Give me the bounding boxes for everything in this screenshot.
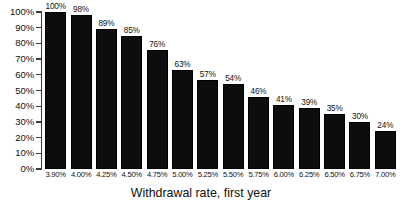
bar-value-label: 98%	[73, 5, 89, 14]
bar[interactable]	[96, 29, 117, 169]
bar[interactable]	[273, 105, 294, 169]
y-axis-tick-mark	[36, 74, 42, 75]
y-axis-tick-label: 100%	[0, 7, 34, 17]
y-axis-tick-label: 30%	[0, 117, 34, 127]
bar-value-label: 76%	[149, 40, 165, 49]
bar-group[interactable]: 76%	[147, 12, 168, 169]
bar[interactable]	[349, 122, 370, 169]
bar-value-label: 41%	[276, 95, 292, 104]
y-axis-tick-mark	[36, 11, 42, 12]
x-axis-title: Withdrawal rate, first year	[0, 186, 402, 201]
bar-value-label: 46%	[251, 87, 267, 96]
y-axis-tick-label: 40%	[0, 101, 34, 111]
bar-group[interactable]: 54%	[223, 12, 244, 169]
bar-chart: 100%90%80%70%60%50%40%30%20%10%0% 100%98…	[0, 0, 402, 207]
y-axis-tick-mark	[36, 106, 42, 107]
bar[interactable]	[71, 15, 92, 169]
bar-group[interactable]: 41%	[273, 12, 294, 169]
bar[interactable]	[375, 131, 396, 169]
bar-group[interactable]: 89%	[96, 12, 117, 169]
y-axis-tick-label: 20%	[0, 133, 34, 143]
bar-value-label: 100%	[46, 2, 66, 11]
bar[interactable]	[172, 70, 193, 169]
bar[interactable]	[45, 12, 66, 169]
y-axis-tick-label: 0%	[0, 164, 34, 174]
bar-group[interactable]: 24%	[375, 12, 396, 169]
bar-value-label: 35%	[327, 104, 343, 113]
bar[interactable]	[324, 114, 345, 169]
bar[interactable]	[223, 84, 244, 169]
bar-group[interactable]: 39%	[299, 12, 320, 169]
bar-group[interactable]: 30%	[349, 12, 370, 169]
y-axis-tick-mark	[36, 168, 42, 169]
bar-group[interactable]: 46%	[248, 12, 269, 169]
y-axis-tick-mark	[36, 153, 42, 154]
bar-group[interactable]: 63%	[172, 12, 193, 169]
y-axis-tick-label: 90%	[0, 23, 34, 33]
bar-value-label: 39%	[301, 98, 317, 107]
bar-value-label: 89%	[98, 19, 114, 28]
bar-group[interactable]: 98%	[71, 12, 92, 169]
y-axis-tick-label: 70%	[0, 54, 34, 64]
x-axis: 3.90%4.00%4.25%4.50%4.75%5.00%5.25%5.50%…	[43, 170, 398, 182]
bar[interactable]	[248, 97, 269, 169]
bar-value-label: 30%	[352, 112, 368, 121]
y-axis-tick-mark	[36, 27, 42, 28]
bar-group[interactable]: 35%	[324, 12, 345, 169]
bar-value-label: 57%	[200, 70, 216, 79]
bar[interactable]	[197, 80, 218, 169]
bar[interactable]	[147, 50, 168, 169]
bar-value-label: 63%	[174, 60, 190, 69]
y-axis: 100%90%80%70%60%50%40%30%20%10%0%	[0, 0, 34, 207]
bar-group[interactable]: 100%	[45, 12, 66, 169]
bar-value-label: 85%	[124, 26, 140, 35]
bar-value-label: 24%	[377, 121, 393, 130]
bar[interactable]	[299, 108, 320, 169]
bar-group[interactable]: 57%	[197, 12, 218, 169]
y-axis-tick-label: 60%	[0, 70, 34, 80]
y-axis-tick-mark	[36, 43, 42, 44]
y-axis-tick-label: 10%	[0, 148, 34, 158]
y-axis-tick-mark	[36, 58, 42, 59]
y-axis-tick-mark	[36, 121, 42, 122]
y-axis-tick-label: 50%	[0, 86, 34, 96]
bar[interactable]	[121, 36, 142, 169]
plot-area: 100%98%89%85%76%63%57%54%46%41%39%35%30%…	[43, 12, 398, 169]
bar-group[interactable]: 85%	[121, 12, 142, 169]
y-axis-tick-mark	[36, 137, 42, 138]
x-axis-tick-label: 7.00%	[370, 170, 400, 180]
bar-value-label: 54%	[225, 74, 241, 83]
y-axis-tick-mark	[36, 90, 42, 91]
y-axis-tick-label: 80%	[0, 38, 34, 48]
